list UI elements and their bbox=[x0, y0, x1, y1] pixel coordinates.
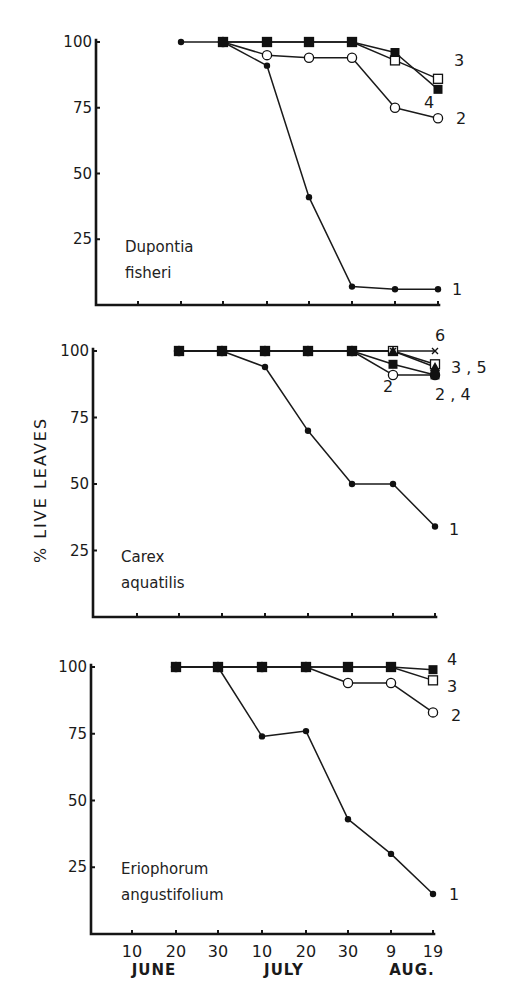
open-circle-marker bbox=[347, 53, 356, 62]
open-circle-marker bbox=[433, 114, 442, 123]
series-end-labels: 63 , 52 , 421 bbox=[383, 326, 487, 539]
filled-square-marker bbox=[258, 663, 267, 672]
y-tick-label: 75 bbox=[73, 99, 92, 117]
dot-marker bbox=[178, 39, 184, 45]
axes: 100755025 bbox=[58, 658, 434, 934]
filled-square-marker bbox=[389, 360, 398, 369]
series-label: 2 bbox=[456, 109, 466, 128]
y-tick-label: 25 bbox=[70, 542, 89, 560]
y-tick-label: 100 bbox=[58, 658, 87, 676]
filled-square-marker bbox=[429, 665, 438, 674]
filled-square-marker bbox=[263, 38, 272, 47]
y-tick-label: 100 bbox=[60, 342, 89, 360]
axes: 100755025 bbox=[63, 33, 439, 305]
series-label: 3 bbox=[454, 51, 464, 70]
open-square-marker bbox=[391, 56, 400, 65]
series-group bbox=[178, 37, 443, 292]
dot-marker bbox=[435, 286, 441, 292]
series-label: 3 bbox=[447, 677, 457, 696]
series-label: 6 bbox=[435, 326, 445, 345]
series-label: 3 , 5 bbox=[451, 358, 487, 377]
filled-square-marker bbox=[344, 663, 353, 672]
series-markers-3 bbox=[219, 38, 443, 84]
filled-square-marker bbox=[434, 85, 443, 94]
axes: 100755025 bbox=[60, 342, 436, 617]
series-line-1 bbox=[181, 42, 438, 289]
open-circle-marker bbox=[262, 51, 271, 60]
y-tick-label: 100 bbox=[63, 33, 92, 51]
filled-square-marker bbox=[219, 38, 228, 47]
filled-square-marker bbox=[172, 663, 181, 672]
x-tick-label: 10 bbox=[252, 942, 272, 961]
filled-square-marker bbox=[305, 38, 314, 47]
series-label: 2 bbox=[383, 377, 393, 396]
dot-marker bbox=[259, 733, 265, 739]
x-tick-label: 30 bbox=[208, 942, 228, 961]
filled-square-marker bbox=[348, 38, 357, 47]
x-tick-label: 10 bbox=[122, 942, 142, 961]
series-label: 1 bbox=[449, 885, 459, 904]
series-end-labels: 3421 bbox=[424, 51, 466, 299]
series-markers-1 bbox=[178, 39, 441, 293]
filled-square-marker bbox=[391, 48, 400, 57]
y-axis-label: % LIVE LEAVES bbox=[31, 417, 50, 563]
month-label: JULY bbox=[263, 961, 304, 979]
filled-square-marker bbox=[214, 663, 223, 672]
species-label: Carexaquatilis bbox=[121, 548, 185, 592]
dot-marker bbox=[388, 851, 394, 857]
x-tick-label: 19 bbox=[423, 942, 443, 961]
y-tick-label: 50 bbox=[70, 475, 89, 493]
dot-marker bbox=[305, 428, 311, 434]
species-label: Eriophorumangustifolium bbox=[121, 860, 224, 904]
dot-marker bbox=[306, 194, 312, 200]
open-circle-marker bbox=[428, 708, 437, 717]
dot-marker bbox=[390, 481, 396, 487]
series-markers-1 bbox=[173, 664, 436, 897]
species-label: Dupontiafisheri bbox=[125, 238, 194, 282]
series-line-1 bbox=[176, 667, 433, 894]
dot-marker bbox=[430, 891, 436, 897]
series-label: 1 bbox=[449, 520, 459, 539]
series-group bbox=[171, 662, 437, 897]
y-tick-label: 75 bbox=[70, 409, 89, 427]
panel-eriophorum-angustifolium: 100755025Eriophorumangustifolium4321 bbox=[58, 650, 461, 934]
filled-square-marker bbox=[302, 663, 311, 672]
series-end-labels: 4321 bbox=[447, 650, 461, 904]
x-tick-label: 9 bbox=[386, 942, 396, 961]
open-square-marker bbox=[434, 74, 443, 83]
figure-canvas: 100755025Dupontiafisheri3421 100755025Ca… bbox=[0, 0, 505, 1002]
x-tick-label: 30 bbox=[338, 942, 358, 961]
y-tick-label: 50 bbox=[68, 792, 87, 810]
open-circle-marker bbox=[386, 678, 395, 687]
open-circle-marker bbox=[343, 678, 352, 687]
dot-marker bbox=[303, 728, 309, 734]
series-label: 2 bbox=[451, 706, 461, 725]
x-axis-labels: 102030102030919JUNEJULYAUG. bbox=[122, 942, 443, 979]
x-tick-label: 20 bbox=[166, 942, 186, 961]
series-label: 4 bbox=[447, 650, 457, 669]
series-label: 4 bbox=[424, 93, 434, 112]
y-tick-label: 50 bbox=[73, 165, 92, 183]
filled-square-marker bbox=[431, 370, 440, 379]
open-circle-marker bbox=[304, 53, 313, 62]
dot-marker bbox=[264, 62, 270, 68]
dot-marker bbox=[262, 364, 268, 370]
series-label: 1 bbox=[452, 280, 462, 299]
panel-carex-aquatilis: 100755025Carexaquatilis63 , 52 , 421 bbox=[60, 326, 486, 617]
dot-marker bbox=[392, 286, 398, 292]
series-line-3 bbox=[223, 42, 438, 79]
dot-marker bbox=[349, 481, 355, 487]
month-label: AUG. bbox=[389, 961, 434, 979]
filled-square-marker bbox=[387, 663, 396, 672]
dot-marker bbox=[345, 816, 351, 822]
panel-dupontia-fisheri: 100755025Dupontiafisheri3421 bbox=[63, 33, 466, 305]
dot-marker bbox=[432, 523, 438, 529]
series-group bbox=[174, 346, 440, 530]
open-circle-marker bbox=[390, 103, 399, 112]
month-label: JUNE bbox=[131, 961, 177, 979]
x-tick-label: 20 bbox=[296, 942, 316, 961]
series-line-2 bbox=[176, 667, 433, 712]
y-tick-label: 25 bbox=[68, 858, 87, 876]
y-tick-label: 75 bbox=[68, 725, 87, 743]
dot-marker bbox=[349, 283, 355, 289]
